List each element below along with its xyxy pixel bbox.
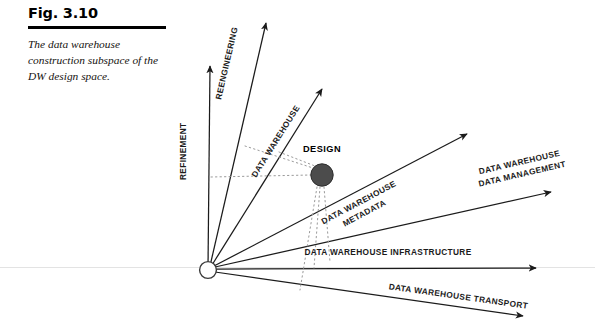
figure-page: Fig. 3.10 The data warehouse constructio… — [0, 0, 595, 332]
projection-line-refinement — [211, 175, 311, 177]
axis-label-data-warehouse: DATA WAREHOUSE — [249, 103, 302, 179]
axis-label-refinement: REFINEMENT — [178, 123, 188, 180]
axis-line-data-warehouse-infrastructure — [216, 268, 536, 269]
design-point-marker — [311, 164, 333, 186]
axis-label-data-warehouse-data-management: DATA WAREHOUSE DATA MANAGEMENT — [475, 147, 567, 189]
projection-line-data-warehouse-transport — [300, 187, 317, 290]
origin-node — [200, 262, 217, 279]
axis-line-refinement — [208, 66, 210, 268]
radial-axis-diagram: DESIGN REFINEMENT REENGINEERING DATA WAR… — [0, 0, 595, 332]
axis-line-reengineering — [210, 23, 266, 266]
axis-label-reengineering: REENGINEERING — [213, 26, 239, 101]
design-point-label: DESIGN — [303, 144, 341, 154]
axis-label-data-warehouse-infrastructure: DATA WAREHOUSE INFRASTRUCTURE — [304, 247, 471, 257]
